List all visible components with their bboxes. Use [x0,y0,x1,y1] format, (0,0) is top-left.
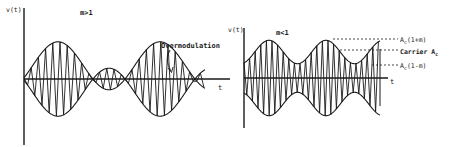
max-level-label: Ac(1+m) [400,36,427,45]
right-t-axis-label: t [390,78,394,86]
min-level-label: Ac(1-m) [400,62,427,71]
carrier-level-label: Carrier Ac [400,48,438,57]
left-panel: v(t) m>1 t Overmodulation [6,6,230,145]
carrier-level-main: Carrier A [400,48,435,56]
am-modulation-diagram: v(t) m>1 t Overmodulation v(t) m<1 t Ac(… [0,0,450,147]
overmodulation-label: Overmodulation [161,42,220,50]
carrier-level-sub: c [435,51,438,57]
left-t-axis-label: t [218,84,222,92]
right-y-axis-label: v(t) [228,26,244,34]
right-condition-label: m<1 [276,29,289,37]
min-level-suffix: (1-m) [407,62,427,70]
max-level-suffix: (1+m) [407,36,427,44]
right-panel: v(t) m<1 t Ac(1+m) Carrier Ac Ac(1-m) [228,26,438,128]
left-condition-label: m>1 [80,9,93,17]
left-y-axis-label: v(t) [6,6,22,14]
